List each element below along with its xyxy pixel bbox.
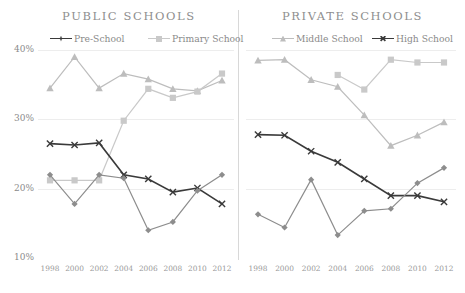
data-point-triangle xyxy=(440,118,447,125)
series-line xyxy=(258,60,444,146)
data-point-square xyxy=(335,72,341,78)
chart-canvas: PUBLIC SCHOOLS PRIVATE SCHOOLS Pre-Schoo… xyxy=(0,0,465,293)
data-point-square xyxy=(414,59,420,65)
data-point-diamond xyxy=(308,177,314,183)
data-point-square xyxy=(388,57,394,63)
series-line xyxy=(258,135,444,202)
data-point-diamond xyxy=(281,224,287,230)
data-point-cross xyxy=(308,148,314,154)
data-point-diamond xyxy=(255,211,261,217)
series-line xyxy=(258,168,444,235)
data-point-cross xyxy=(361,176,367,182)
data-point-square xyxy=(441,59,447,65)
plot-area-private xyxy=(0,0,465,293)
data-point-diamond xyxy=(441,165,447,171)
data-point-triangle xyxy=(414,132,421,139)
series-line xyxy=(338,60,444,90)
data-point-cross xyxy=(335,159,341,165)
data-point-square xyxy=(361,86,367,92)
